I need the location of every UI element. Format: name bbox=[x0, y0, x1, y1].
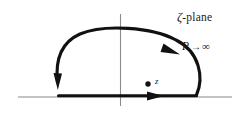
arrowheads-group bbox=[54, 44, 181, 101]
pole-z-dot bbox=[145, 81, 150, 86]
radius-symbol: R bbox=[182, 40, 190, 52]
radius-limit-label: R→∞ bbox=[182, 41, 210, 53]
infinity-symbol: ∞ bbox=[202, 40, 210, 52]
semicircular-arc bbox=[57, 28, 200, 95]
arc-upper-right-arrow-icon bbox=[161, 44, 181, 55]
point-z-label: z bbox=[155, 77, 158, 86]
figure-canvas bbox=[0, 0, 250, 120]
contour-figure: ζ-plane R→∞ z bbox=[0, 0, 250, 120]
bottom-right-arrow-icon bbox=[147, 92, 164, 101]
contour-path-group bbox=[57, 28, 200, 96]
plane-label-suffix: -plane bbox=[182, 11, 212, 23]
plane-label: ζ-plane bbox=[177, 11, 212, 24]
right-arrow-icon: → bbox=[190, 41, 202, 52]
arc-left-descending-arrow-icon bbox=[54, 73, 63, 90]
